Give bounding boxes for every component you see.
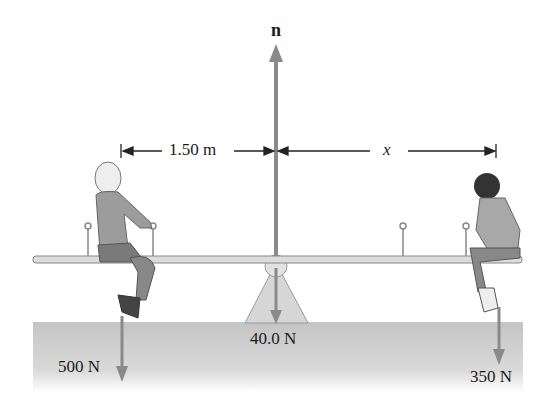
girl-figure: [95, 162, 155, 318]
girl-weight-label: 500 N: [58, 357, 100, 377]
right-distance-label: x: [383, 140, 391, 160]
left-distance-label: 1.50 m: [169, 140, 216, 160]
boy-weight-label: 350 N: [470, 367, 512, 387]
boy-figure: [470, 173, 520, 312]
normal-force-label: n: [271, 20, 281, 41]
seesaw-weight-label: 40.0 N: [250, 329, 296, 349]
